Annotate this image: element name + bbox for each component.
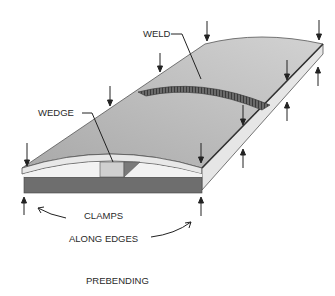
along-edges-curved-arrow <box>151 222 191 237</box>
clamps-curved-arrow <box>38 208 66 218</box>
clamps-label: CLAMPS <box>84 210 123 221</box>
along-edges-label: ALONG EDGES <box>69 233 138 244</box>
wedge-label: WEDGE <box>38 107 74 118</box>
base-bar <box>24 177 202 193</box>
weld-label: WELD <box>143 28 171 39</box>
figure-title: PREBENDING <box>86 275 149 286</box>
prebending-diagram: WELD WEDGE CLAMPS ALONG EDGES PREBENDING <box>0 0 335 296</box>
